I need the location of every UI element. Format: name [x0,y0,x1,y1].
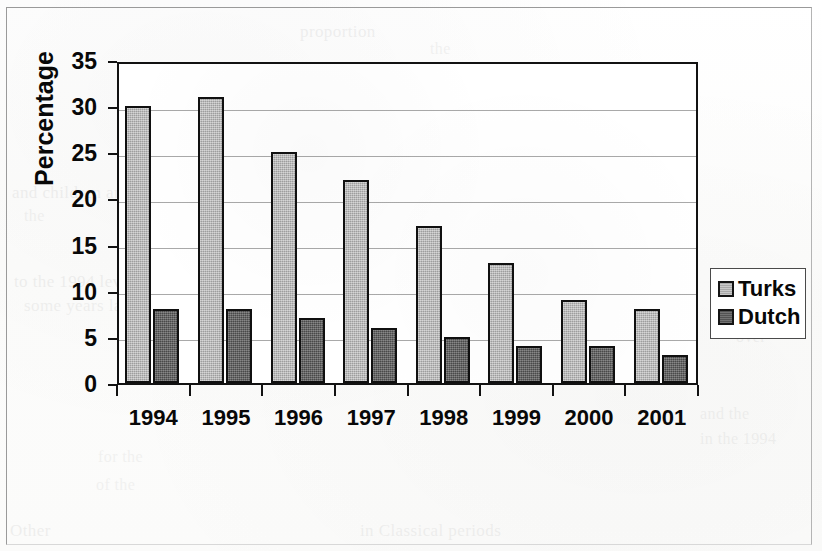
y-tick-35 [108,61,117,63]
bar-turks-1997 [343,180,369,383]
y-tick-label-15: 15 [33,235,97,258]
legend-label-turks: Turks [738,278,796,300]
x-tick-label-2001: 2001 [625,407,698,429]
bar-turks-1995 [198,97,224,383]
y-tick-10 [108,292,117,294]
x-tick-label-1998: 1998 [408,407,481,429]
legend-swatch-icon-dutch [718,309,734,325]
x-tick-label-1995: 1995 [190,407,263,429]
bar-group [416,64,470,383]
plot-area [117,62,698,385]
x-tick-label-1997: 1997 [335,407,408,429]
bar-dutch-1994 [153,309,179,383]
bar-dutch-2001 [662,355,688,383]
y-tick-label-5: 5 [33,327,97,350]
x-tick-label-1994: 1994 [117,407,190,429]
bar-turks-1994 [125,106,151,383]
legend: TurksDutch [710,268,806,339]
y-tick-20 [108,199,117,201]
bar-turks-2001 [634,309,660,383]
bar-dutch-1999 [516,346,542,383]
bar-turks-1998 [416,226,442,383]
x-tick-2 [261,385,263,396]
y-tick-30 [108,107,117,109]
x-tick-7 [624,385,626,396]
bar-group [634,64,688,383]
bar-turks-1999 [488,263,514,383]
x-tick-5 [479,385,481,396]
y-axis-title: Percentage [30,9,59,229]
x-tick-label-1996: 1996 [262,407,335,429]
bar-turks-2000 [561,300,587,383]
bar-turks-1996 [271,152,297,383]
bar-group [488,64,542,383]
x-tick-3 [334,385,336,396]
bar-dutch-1996 [299,318,325,383]
x-tick-label-1999: 1999 [480,407,553,429]
y-tick-25 [108,153,117,155]
x-tick-4 [407,385,409,396]
bar-group [125,64,179,383]
bar-group [198,64,252,383]
bar-dutch-1997 [371,328,397,383]
legend-swatch-icon-turks [718,281,734,297]
y-tick-label-10: 10 [33,281,97,304]
bar-group [343,64,397,383]
legend-item-turks: Turks [718,275,799,303]
y-tick-15 [108,246,117,248]
bar-dutch-1995 [226,309,252,383]
x-tick-0 [116,385,118,396]
bar-dutch-1998 [444,337,470,383]
bar-group [561,64,615,383]
legend-item-dutch: Dutch [718,303,799,331]
bar-group [271,64,325,383]
y-tick-label-0: 0 [33,373,97,396]
x-tick-label-2000: 2000 [553,407,626,429]
x-tick-1 [189,385,191,396]
y-tick-5 [108,338,117,340]
x-tick-8 [697,385,699,396]
y-tick-0 [108,384,117,386]
bar-dutch-2000 [589,346,615,383]
x-tick-6 [552,385,554,396]
bar-chart: Percentage 05101520253035 19941995199619… [0,0,822,551]
legend-label-dutch: Dutch [738,306,800,328]
scanned-figure-page: proportiontheand children among thetheto… [0,0,822,551]
bars-layer [119,64,696,383]
